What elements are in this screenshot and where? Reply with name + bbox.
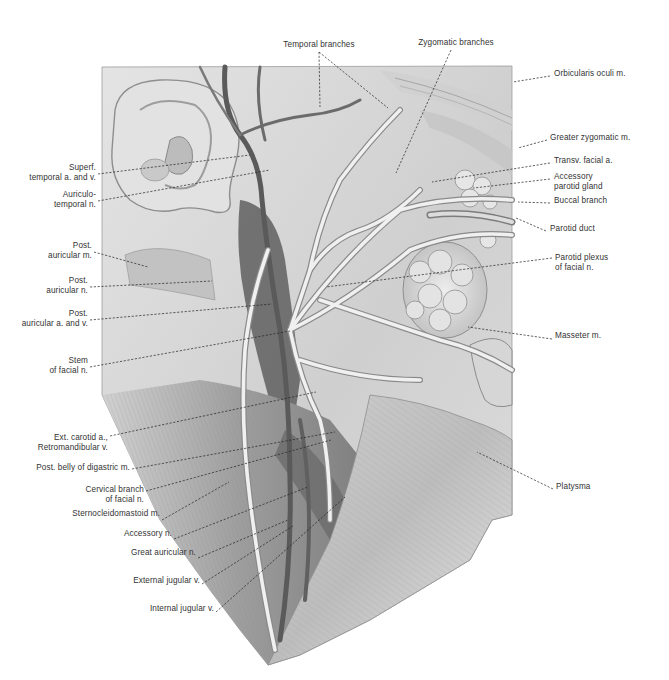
label-platysma: Platysma bbox=[556, 482, 590, 492]
label-orbicularis-oculi: Orbicularis oculi m. bbox=[554, 69, 626, 79]
label-transv-facial: Transv. facial a. bbox=[554, 156, 613, 166]
label-sternocleidomastoid: Sternocleidomastoid m. bbox=[72, 509, 160, 519]
ear-auricle bbox=[112, 80, 239, 213]
label-great-auricular: Great auricular n. bbox=[131, 548, 196, 558]
label-post-auricular-n: Post. auricular n. bbox=[46, 276, 88, 296]
label-post-auricular-av: Post. auricular a. and v. bbox=[22, 309, 88, 329]
label-greater-zygomatic: Greater zygomatic m. bbox=[550, 133, 630, 143]
label-stem-facial: Stem of facial n. bbox=[49, 356, 88, 376]
label-parotid-plexus: Parotid plexus of facial n. bbox=[555, 253, 608, 273]
anatomical-illustration: Superf. temporal a. and v. Auriculo- tem… bbox=[0, 0, 669, 680]
label-external-jugular: External jugular v. bbox=[133, 576, 200, 586]
label-ext-carotid: Ext. carotid a., Retromandibular v. bbox=[38, 433, 108, 453]
label-auriculotemporal: Auriculo- temporal n. bbox=[54, 190, 96, 210]
label-internal-jugular: Internal jugular v. bbox=[150, 604, 214, 614]
leader-parotid-duct bbox=[516, 218, 546, 231]
label-post-auricular-m: Post. auricular m. bbox=[48, 241, 92, 261]
label-zygomatic-branches: Zygomatic branches bbox=[411, 38, 501, 48]
label-accessory-n: Accessory n. bbox=[124, 529, 172, 539]
label-masseter: Masseter m. bbox=[555, 331, 601, 341]
label-buccal-branch: Buccal branch bbox=[554, 196, 607, 206]
label-temporal-branches: Temporal branches bbox=[273, 40, 365, 50]
leader-orbicularis-oculi bbox=[513, 76, 550, 82]
label-superf-temporal: Superf. temporal a. and v. bbox=[29, 163, 96, 183]
leader-greater-zygomatic bbox=[518, 140, 547, 148]
label-post-belly-digastric: Post. belly of digastric m. bbox=[36, 463, 130, 473]
label-cervical-branch: Cervical branch of facial n. bbox=[86, 485, 144, 505]
leader-buccal-branch bbox=[518, 202, 550, 203]
label-parotid-duct: Parotid duct bbox=[550, 224, 595, 234]
label-accessory-parotid: Accessory parotid gland bbox=[554, 172, 603, 192]
